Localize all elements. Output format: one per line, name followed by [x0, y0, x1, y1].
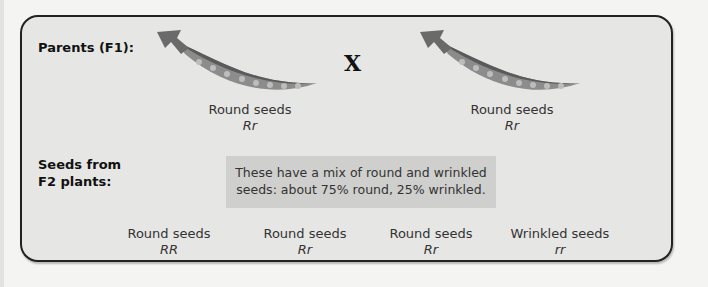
- genotype: Rr: [457, 118, 567, 134]
- phenotype: Round seeds: [208, 102, 291, 117]
- phenotype: Round seeds: [389, 226, 472, 241]
- genotype: Rr: [376, 242, 486, 258]
- genotype: Rr: [195, 118, 305, 134]
- offspring-3-caption: Round seeds Rr: [376, 226, 486, 258]
- genotype: rr: [500, 242, 620, 258]
- phenotype: Round seeds: [263, 226, 346, 241]
- genotype: Rr: [250, 242, 360, 258]
- phenotype: Round seeds: [470, 102, 553, 117]
- phenotype: Wrinkled seeds: [511, 226, 610, 241]
- offspring-label: Seeds from F2 plants:: [38, 156, 121, 190]
- page-edge-strip: [0, 0, 4, 287]
- ratio-note: These have a mix of round and wrinkled s…: [226, 156, 496, 208]
- offspring-label-line1: Seeds from: [38, 156, 121, 173]
- pea-pod-icon: [155, 28, 325, 98]
- offspring-label-line2: F2 plants:: [38, 173, 121, 190]
- offspring-4-caption: Wrinkled seeds rr: [500, 226, 620, 258]
- parent-1-caption: Round seeds Rr: [195, 102, 305, 134]
- ratio-note-line2: seeds: about 75% round, 25% wrinkled.: [226, 181, 496, 198]
- ratio-note-line1: These have a mix of round and wrinkled: [226, 164, 496, 181]
- pea-pod-icon: [418, 28, 588, 98]
- phenotype: Round seeds: [127, 226, 210, 241]
- genotype: RR: [114, 242, 224, 258]
- parent-2-caption: Round seeds Rr: [457, 102, 567, 134]
- parents-label: Parents (F1):: [38, 39, 134, 56]
- offspring-2-caption: Round seeds Rr: [250, 226, 360, 258]
- cross-symbol: X: [344, 50, 361, 76]
- offspring-1-caption: Round seeds RR: [114, 226, 224, 258]
